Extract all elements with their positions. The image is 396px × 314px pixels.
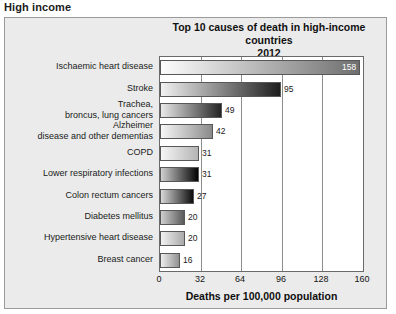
x-tick-label: 128 — [306, 274, 336, 284]
bar-value-label: 20 — [188, 211, 197, 224]
category-label: Diabetes mellitus — [9, 211, 157, 222]
bar-value-label: 31 — [202, 147, 211, 160]
bar — [160, 146, 199, 161]
bar-row: 95 — [160, 82, 363, 97]
x-tick-label: 160 — [347, 274, 377, 284]
bar-row: 20 — [160, 231, 363, 246]
category-label-line: Colon rectum cancers — [9, 190, 153, 201]
bar-row: 42 — [160, 124, 363, 139]
x-tick-label: 96 — [266, 274, 296, 284]
category-label-line: broncus, lung cancers — [9, 110, 153, 121]
bar-value-label: 95 — [284, 83, 293, 96]
bar-value-label: 27 — [197, 190, 206, 203]
category-label-line: Diabetes mellitus — [9, 211, 153, 222]
bar-value-label: 20 — [188, 232, 197, 245]
bar-row: 27 — [160, 189, 363, 204]
bar-value-label: 158 — [342, 61, 356, 74]
category-label: Alzheimerdisease and other dementias — [9, 120, 157, 141]
chart-title: Top 10 causes of death in high-income co… — [155, 21, 383, 60]
chart-screenshot: High income Top 10 causes of death in hi… — [0, 0, 396, 314]
category-label: Colon rectum cancers — [9, 190, 157, 201]
bar — [160, 60, 360, 75]
x-tick-label: 32 — [185, 274, 215, 284]
bar-row: 158 — [160, 60, 363, 75]
category-label: Lower respiratory infections — [9, 168, 157, 179]
category-label-line: Hypertensive heart disease — [9, 232, 153, 243]
category-label-line: Alzheimer — [9, 120, 153, 131]
category-label-line: Breast cancer — [9, 254, 153, 265]
bar — [160, 82, 281, 97]
category-label-line: disease and other dementias — [9, 131, 153, 142]
category-label: Trachea,broncus, lung cancers — [9, 99, 157, 120]
bar-row: 49 — [160, 103, 363, 118]
bar-row: 20 — [160, 210, 363, 225]
bar — [160, 103, 222, 118]
bar-value-label: 31 — [202, 168, 211, 181]
bar — [160, 231, 185, 246]
category-label-line: Stroke — [9, 83, 153, 94]
bar-row: 31 — [160, 167, 363, 182]
category-label: Hypertensive heart disease — [9, 232, 157, 243]
bar-value-label: 42 — [216, 125, 225, 138]
x-axis-label: Deaths per 100,000 population — [159, 290, 364, 302]
category-label-line: Trachea, — [9, 99, 153, 110]
category-label: Stroke — [9, 83, 157, 94]
bar — [160, 167, 199, 182]
x-tick-label: 0 — [144, 274, 174, 284]
bar-row: 16 — [160, 253, 363, 268]
bar-value-label: 49 — [225, 104, 234, 117]
plot-area: 158954942313127202016 — [159, 56, 364, 272]
bar — [160, 124, 213, 139]
x-tick-label: 64 — [225, 274, 255, 284]
chart-title-line1: Top 10 causes of death in high-income co… — [173, 21, 366, 46]
category-label: Ischaemic heart disease — [9, 61, 157, 72]
category-label-line: Lower respiratory infections — [9, 168, 153, 179]
category-label-line: COPD — [9, 147, 153, 158]
bar-value-label: 16 — [183, 254, 192, 267]
bar-row: 31 — [160, 146, 363, 161]
chart-panel: Top 10 causes of death in high-income co… — [4, 17, 387, 309]
category-label: Breast cancer — [9, 254, 157, 265]
bar — [160, 189, 194, 204]
category-label: COPD — [9, 147, 157, 158]
bar — [160, 210, 185, 225]
bar-series: 158954942313127202016 — [160, 57, 363, 271]
section-heading: High income — [4, 1, 71, 13]
category-label-line: Ischaemic heart disease — [9, 61, 153, 72]
bar — [160, 253, 180, 268]
